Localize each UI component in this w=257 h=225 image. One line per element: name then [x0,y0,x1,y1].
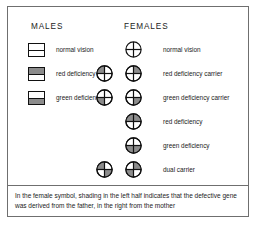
figure-root: MALES FEMALES normal vision red deficien… [0,0,257,225]
male-symbol-bottom-half [29,75,44,81]
female-symbol-red-deficiency [125,113,142,130]
female-symbol-red-deficiency-carrier-paternal [96,65,113,82]
female-symbol-red-deficiency-carrier-maternal [125,65,142,82]
figure-caption: In the female symbol, shading in the lef… [15,191,243,211]
female-row-label-red-deficiency: red deficiency [163,119,202,125]
male-symbol-bottom-half [29,51,44,57]
male-row-label-normal-vision: normal vision [56,47,94,53]
female-symbol-dual-carrier-left [96,161,113,178]
male-symbol-red-deficiency [28,67,45,81]
female-row-label-red-deficiency-carrier: red deficiency carrier [163,71,222,77]
female-symbol-dual-carrier-right [125,161,142,178]
female-symbol-normal-vision [125,41,142,58]
female-row-label-normal-vision: normal vision [163,47,201,53]
column-header-females: FEMALES [124,22,169,31]
female-row-label-green-deficiency: green deficiency [163,143,210,149]
male-row-label-red-deficiency: red deficiency [56,71,95,77]
female-row-label-dual-carrier: dual carrier [163,167,195,173]
female-row-label-green-deficiency-carrier: green deficiency carrier [163,95,229,101]
female-symbol-green-deficiency-carrier-paternal [96,89,113,106]
male-symbol-bottom-half [29,99,44,105]
caption-divider [8,185,248,186]
column-header-males: MALES [31,22,63,31]
male-symbol-normal-vision [28,43,45,57]
female-symbol-green-deficiency-carrier-maternal [125,89,142,106]
female-symbol-green-deficiency [125,137,142,154]
male-symbol-green-deficiency [28,91,45,105]
